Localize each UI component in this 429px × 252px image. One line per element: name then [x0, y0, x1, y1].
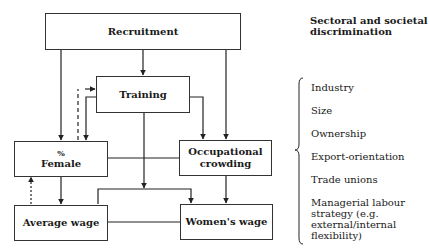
occupational-label-line2: crowding	[200, 158, 252, 170]
factor-managerial-strategy: Managerial labour strategy (e.g. externa…	[311, 197, 423, 241]
female-share-node: % Female	[14, 141, 108, 177]
female-label: Female	[41, 158, 81, 170]
factor-industry: Industry	[311, 82, 429, 93]
female-percent-symbol: %	[57, 149, 65, 158]
average-wage-node: Average wage	[14, 205, 108, 241]
training-node: Training	[96, 76, 190, 113]
factor-trade-unions: Trade unions	[311, 174, 429, 185]
factor-export-orientation: Export-orientation	[311, 151, 429, 162]
average-wage-label: Average wage	[23, 217, 100, 229]
factor-ownership: Ownership	[311, 128, 429, 139]
recruitment-label: Recruitment	[108, 26, 179, 38]
womens-wage-node: Women's wage	[180, 204, 273, 240]
sidebar-heading: Sectoral and societal discrimination	[310, 15, 428, 37]
factor-size: Size	[311, 105, 429, 116]
womens-wage-label: Women's wage	[186, 216, 268, 228]
occupational-label-line1: Occupational	[188, 146, 262, 158]
recruitment-node: Recruitment	[45, 13, 241, 50]
training-label: Training	[119, 89, 167, 101]
occupational-crowding-node: Occupational crowding	[179, 140, 272, 176]
